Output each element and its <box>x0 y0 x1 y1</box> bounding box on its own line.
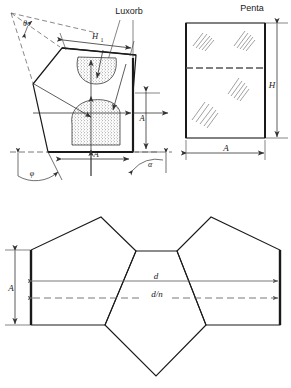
luxorb-label: Luxorb <box>115 6 143 16</box>
penta-label: Penta <box>240 3 264 13</box>
h-right-label: H <box>268 80 276 90</box>
h1-label: H <box>91 31 99 41</box>
a-right-label: A <box>222 143 229 153</box>
phi-label: φ <box>30 169 35 178</box>
a-bottom-label: A <box>7 283 14 293</box>
a-horizontal-label: A <box>92 149 99 159</box>
d-label: d <box>154 271 159 281</box>
luxorb-region-lower <box>72 100 120 145</box>
h1-subscript: 1 <box>101 37 104 43</box>
theta-label: θ <box>23 19 27 28</box>
d-over-n-label: d/n <box>151 289 163 299</box>
technical-diagram-figure: Penta θ H 1 Luxorb <box>0 0 291 388</box>
a-vertical-label: A <box>138 113 145 123</box>
